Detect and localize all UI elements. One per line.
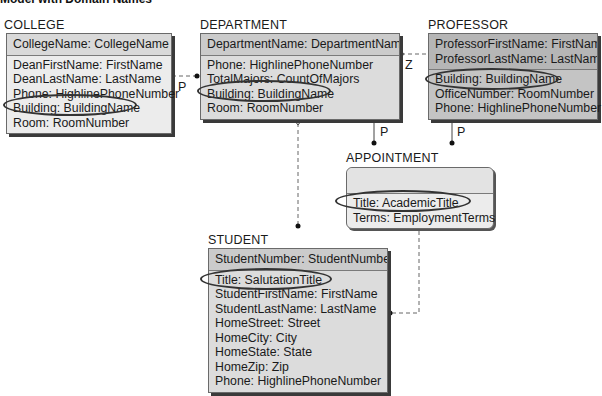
attribute: HomeZip: Zip bbox=[215, 360, 382, 375]
relationship-label-professor-appointment: P bbox=[457, 125, 465, 139]
attribute: HomeCity: City bbox=[215, 331, 382, 346]
attribute: Phone: HighlinePhoneNumber bbox=[207, 58, 394, 73]
primary-key-section: CollegeName: CollegeName bbox=[7, 34, 171, 56]
attribute: DeanFirstName: FirstName bbox=[13, 58, 166, 73]
key-attribute: DepartmentName: DepartmentName bbox=[207, 37, 394, 52]
attribute: Room: RoomNumber bbox=[13, 116, 166, 131]
entity-name-college: COLLEGE bbox=[4, 18, 64, 32]
relationship-label-department-professor: Z bbox=[405, 58, 413, 72]
primary-key-section: ProfessorFirstName: FirstName ProfessorL… bbox=[429, 34, 597, 70]
entity-name-professor: PROFESSOR bbox=[428, 18, 508, 32]
attribute: HomeState: State bbox=[215, 345, 382, 360]
highlight-oval bbox=[197, 80, 331, 102]
attribute: Phone: HighlinePhoneNumber bbox=[435, 101, 592, 116]
highlight-oval bbox=[3, 94, 137, 116]
key-attribute: StudentNumber: StudentNumber bbox=[215, 252, 382, 267]
attribute: Room: RoomNumber bbox=[207, 101, 394, 116]
key-attribute: ProfessorFirstName: FirstName bbox=[435, 37, 592, 52]
attribute: StudentLastName: LastName bbox=[215, 302, 382, 317]
attribute: DeanLastName: LastName bbox=[13, 72, 166, 87]
highlight-oval bbox=[425, 68, 559, 90]
attribute: Terms: EmploymentTerms bbox=[353, 211, 488, 226]
entity-college[interactable]: CollegeName: CollegeName DeanFirstName: … bbox=[6, 33, 172, 134]
attribute: HomeStreet: Street bbox=[215, 316, 382, 331]
entity-department[interactable]: DepartmentName: DepartmentName Phone: Hi… bbox=[200, 33, 400, 120]
entity-name-student: STUDENT bbox=[208, 233, 268, 247]
relationship-label-college-department: P bbox=[178, 80, 186, 94]
entity-name-department: DEPARTMENT bbox=[200, 18, 287, 32]
relationship-label-department-appointment: P bbox=[380, 125, 388, 139]
key-attribute: CollegeName: CollegeName bbox=[13, 37, 166, 52]
primary-key-section: DepartmentName: DepartmentName bbox=[201, 34, 399, 56]
highlight-oval bbox=[200, 268, 332, 290]
highlight-oval bbox=[335, 190, 471, 212]
attribute: Phone: HighlinePhoneNumber bbox=[215, 374, 382, 389]
entity-name-appointment: APPOINTMENT bbox=[346, 151, 438, 165]
key-attribute: ProfessorLastName: LastName bbox=[435, 52, 592, 67]
primary-key-section: StudentNumber: StudentNumber bbox=[209, 249, 387, 271]
